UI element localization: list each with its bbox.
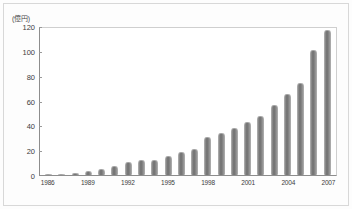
bar xyxy=(257,116,264,175)
bar-slot xyxy=(294,28,307,175)
bar-slot xyxy=(307,28,320,175)
bar xyxy=(72,173,79,175)
bar xyxy=(310,50,317,175)
y-axis-tick-mark xyxy=(39,77,42,78)
bar xyxy=(165,156,172,175)
x-axis-tick-label: 2007 xyxy=(321,179,335,186)
bar xyxy=(98,169,105,175)
x-axis-tick-label: 2004 xyxy=(281,179,295,186)
y-axis-tick-mark xyxy=(39,52,42,53)
x-axis-tick-label: 1998 xyxy=(201,179,215,186)
bar xyxy=(297,83,304,175)
y-axis-tick-mark xyxy=(39,27,42,28)
bar-slot xyxy=(321,28,334,175)
bar xyxy=(125,162,132,175)
y-axis-tick-label: 40 xyxy=(0,122,39,131)
y-axis-tick-mark xyxy=(39,126,42,127)
bar xyxy=(45,174,52,175)
y-axis-tick-label: 100 xyxy=(0,47,39,56)
bar-slot xyxy=(188,28,201,175)
bar xyxy=(271,105,278,175)
bar-slot xyxy=(108,28,121,175)
y-axis-tick-mark xyxy=(39,151,42,152)
bar xyxy=(324,30,331,175)
bar xyxy=(204,137,211,175)
chart-container: (億円) 02040608010012019861989199219951998… xyxy=(0,0,352,209)
bar-slot xyxy=(95,28,108,175)
bar xyxy=(191,149,198,175)
bar xyxy=(218,133,225,175)
y-axis-unit-label: (億円) xyxy=(12,13,30,23)
x-axis-tick-label: 1995 xyxy=(161,179,175,186)
y-axis-tick-mark xyxy=(39,102,42,103)
bar-slot xyxy=(241,28,254,175)
bar-slot xyxy=(254,28,267,175)
bar xyxy=(244,122,251,175)
bar-slot xyxy=(148,28,161,175)
bar xyxy=(58,174,65,175)
bar xyxy=(151,160,158,175)
bar xyxy=(284,94,291,175)
x-axis-tick-label: 1986 xyxy=(41,179,55,186)
bar-slot xyxy=(122,28,135,175)
y-axis-tick-label: 120 xyxy=(0,23,39,32)
y-axis-tick-label: 60 xyxy=(0,97,39,106)
bar-series xyxy=(40,28,336,175)
bar xyxy=(111,166,118,175)
y-axis-tick-label: 20 xyxy=(0,147,39,156)
bar-slot xyxy=(55,28,68,175)
x-axis-tick-label: 1989 xyxy=(81,179,95,186)
bar xyxy=(138,160,145,175)
bar-slot xyxy=(69,28,82,175)
bar xyxy=(231,128,238,175)
x-axis-tick-label: 2001 xyxy=(241,179,255,186)
bar-slot xyxy=(175,28,188,175)
bar-slot xyxy=(42,28,55,175)
bar-slot xyxy=(228,28,241,175)
bar xyxy=(85,171,92,175)
bar-slot xyxy=(135,28,148,175)
bar-slot xyxy=(161,28,174,175)
bar-slot xyxy=(268,28,281,175)
bar-slot xyxy=(82,28,95,175)
bar xyxy=(178,152,185,175)
bar-slot xyxy=(201,28,214,175)
bar-slot xyxy=(214,28,227,175)
y-axis-tick-label: 0 xyxy=(0,172,39,181)
bar-slot xyxy=(281,28,294,175)
x-axis-tick-label: 1992 xyxy=(121,179,135,186)
y-axis-tick-label: 80 xyxy=(0,72,39,81)
plot-area xyxy=(39,27,337,176)
